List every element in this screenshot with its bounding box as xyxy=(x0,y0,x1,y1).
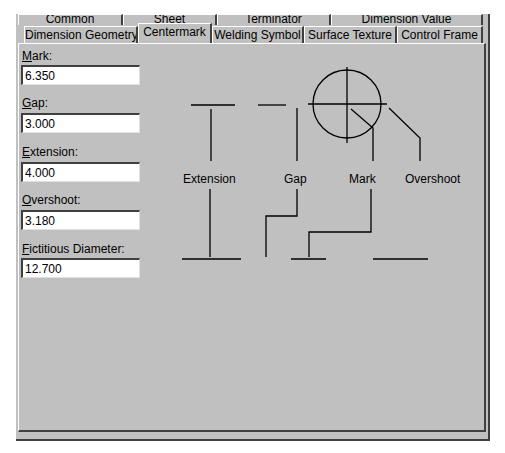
tab-control-frame[interactable]: Control Frame xyxy=(397,26,483,43)
tab-centermark[interactable]: Centermark xyxy=(138,23,212,43)
tab-terminator[interactable]: Terminator xyxy=(217,14,331,25)
tab-welding-symbol[interactable]: Welding Symbol xyxy=(212,26,304,43)
tab-common[interactable]: Common xyxy=(18,14,123,25)
centermark-settings-dialog: Common Sheet Terminator Dimension Value … xyxy=(16,14,490,441)
diagram-label-gap: Gap xyxy=(284,172,307,186)
diagram-label-mark: Mark xyxy=(349,172,376,186)
diagram-label-extension: Extension xyxy=(183,172,236,186)
tab-row-front: Dimension Geometry Centermark Welding Sy… xyxy=(16,25,490,42)
centermark-diagram xyxy=(19,44,485,431)
tab-dimension-value[interactable]: Dimension Value xyxy=(331,14,483,25)
tab-surface-texture[interactable]: Surface Texture xyxy=(304,26,397,43)
centermark-panel: Mark: Gap: Extension: Overshoot: Fictiti… xyxy=(18,43,486,432)
diagram-label-overshoot: Overshoot xyxy=(405,172,460,186)
tab-dimension-geometry[interactable]: Dimension Geometry xyxy=(24,26,138,43)
